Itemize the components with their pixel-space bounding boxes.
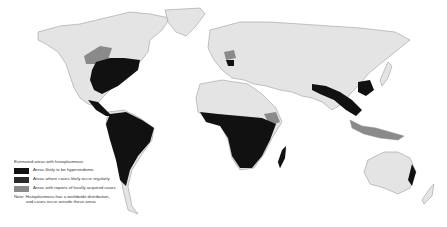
north-america-endemic-area — [90, 58, 140, 94]
histoplasmosis-world-map: Estimated areas with histoplasmosis Area… — [0, 0, 447, 227]
africa-endemic-area — [200, 112, 276, 168]
greenland — [165, 8, 205, 36]
legend-note: Note: Histoplasmosis has a worldwide dis… — [14, 195, 134, 205]
legend-item-regular: Areas where cases likely occur regularly — [14, 177, 134, 183]
legend-label: Areas where cases likely occur regularly — [33, 177, 110, 182]
hyperendemic-swatch — [14, 168, 29, 174]
legend-item-hyperendemic: Areas likely to be hyperendemic — [14, 168, 134, 174]
legend-item-sporadic: Areas with reports of locally acquired c… — [14, 186, 134, 192]
legend-label: Areas likely to be hyperendemic — [33, 168, 94, 173]
australia — [364, 152, 416, 194]
sporadic-swatch — [14, 186, 29, 192]
japan — [380, 62, 392, 86]
madagascar-endemic-area — [278, 146, 286, 168]
note-line-2: and cases occur outside these areas — [14, 200, 134, 205]
regular-swatch — [14, 177, 29, 183]
central-america-endemic-area — [88, 100, 112, 116]
legend-label: Areas with reports of locally acquired c… — [33, 186, 116, 191]
east-asia-endemic-area — [358, 80, 374, 96]
legend: Estimated areas with histoplasmosis Area… — [14, 160, 134, 205]
indonesia — [350, 120, 404, 140]
new-zealand — [422, 184, 434, 204]
legend-title: Estimated areas with histoplasmosis — [14, 160, 134, 165]
